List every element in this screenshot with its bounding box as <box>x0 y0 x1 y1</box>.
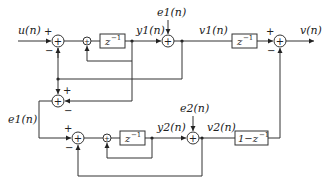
diff-exp: −1 <box>259 131 269 139</box>
e1-left-label: e1(n) <box>8 113 37 126</box>
summing-junction-1: + <box>52 35 64 47</box>
outsum-symbol: + <box>276 36 284 47</box>
delay1-text: z <box>104 36 111 47</box>
delay1-exp: −1 <box>111 34 121 42</box>
midsum-minus-sign: − <box>64 105 72 116</box>
diff-to-output-sum <box>268 48 280 138</box>
sum2-minus-sign: − <box>65 142 73 153</box>
v1-label: v1(n) <box>199 24 228 37</box>
y1-label: y1(n) <box>135 24 165 37</box>
diff-text: 1−z <box>238 133 259 144</box>
y2-label: y2(n) <box>156 121 186 134</box>
delay2-text: z <box>236 36 243 47</box>
sum2-symbol: + <box>74 133 82 144</box>
summing-junction-e1: + <box>162 35 174 47</box>
summing-junction-e2: + <box>187 132 199 144</box>
summing-junction-2: + <box>72 132 84 144</box>
delay3-text: z <box>124 133 131 144</box>
sum-e2-symbol: + <box>189 133 197 144</box>
delay-block-3: z −1 <box>120 131 145 145</box>
outsum-minus-sign: − <box>267 45 275 56</box>
sum-e1-symbol: + <box>164 36 172 47</box>
input-label-u: u(n) <box>18 24 41 37</box>
sum1-symbol: + <box>54 36 62 47</box>
small-sum2-symbol: + <box>104 135 110 143</box>
delay-block-1: z −1 <box>100 34 125 48</box>
sum2-plus-sign: + <box>64 123 72 134</box>
midsum-plus-sign: + <box>63 85 71 96</box>
e2-label: e2(n) <box>180 102 209 115</box>
difference-block: 1−z −1 <box>235 131 269 145</box>
small-sum1-symbol: + <box>84 38 90 46</box>
sum1-minus-sign: − <box>45 45 53 56</box>
sum1-plus-sign: + <box>44 26 52 37</box>
outsum-plus-sign: + <box>266 26 274 37</box>
v2-label: v2(n) <box>207 121 236 134</box>
block-diagram: u(n) + − + + z −1 y1(n) e1(n) + v1(n) z … <box>0 0 331 188</box>
small-summing-junction-2: + <box>103 134 111 143</box>
small-summing-junction-1: + <box>83 37 91 46</box>
delay2-exp: −1 <box>243 34 253 42</box>
midsum-symbol: + <box>54 96 62 107</box>
output-label-v: v(n) <box>300 24 322 37</box>
y1-to-middle-sum <box>65 61 132 101</box>
delay-block-2: z −1 <box>232 34 257 48</box>
delay3-exp: −1 <box>131 131 141 139</box>
e1-top-label: e1(n) <box>157 6 186 19</box>
summing-junction-output: + <box>274 35 286 47</box>
summing-junction-middle: + <box>52 95 64 107</box>
